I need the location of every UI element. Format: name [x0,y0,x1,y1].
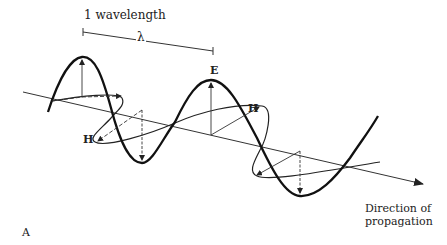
lambda-symbol: λ [136,31,146,43]
em-wave-diagram: 1 wavelength λ E H H A Direction of prop… [0,0,447,245]
magnetic-field-label-1: H [83,134,93,145]
wavelength-label: 1 wavelength [84,9,166,21]
wavelength-bracket [83,28,213,55]
direction-label-line2: propagation [365,215,433,228]
direction-of-propagation-label: Direction of propagation [365,202,433,228]
electric-field-label: E [210,65,218,76]
h-field-vectors [82,96,300,175]
electric-field-wave [48,57,378,196]
magnetic-field-label-2: H [248,103,258,114]
direction-label-line1: Direction of [365,202,433,215]
panel-label: A [22,227,30,238]
